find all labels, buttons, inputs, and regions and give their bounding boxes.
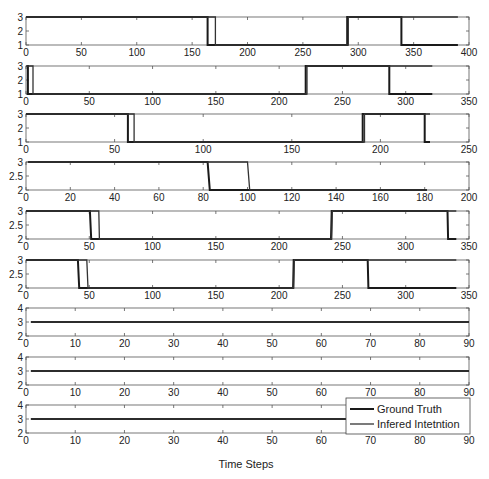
x-tick-label: 30 xyxy=(168,435,180,446)
subplot-2: 050100150200250300350123 xyxy=(17,61,477,108)
x-tick-label: 80 xyxy=(414,435,426,446)
y-tick-label: 4 xyxy=(17,400,23,411)
x-tick-label: 20 xyxy=(65,192,77,203)
x-tick-label: 70 xyxy=(365,435,377,446)
x-tick-label: 20 xyxy=(119,338,131,349)
y-tick-label: 3 xyxy=(17,12,23,23)
y-tick-label: 2 xyxy=(17,75,23,86)
y-tick-label: 2 xyxy=(17,185,23,196)
subplot-1: 050100150200250300350400123 xyxy=(17,12,477,59)
x-tick-label: 200 xyxy=(461,192,478,203)
x-tick-label: 100 xyxy=(144,290,161,301)
x-tick-label: 30 xyxy=(168,338,180,349)
x-tick-label: 50 xyxy=(267,435,279,446)
x-tick-label: 0 xyxy=(23,192,29,203)
x-tick-label: 200 xyxy=(271,241,288,252)
y-tick-label: 1 xyxy=(17,137,23,148)
x-tick-label: 140 xyxy=(328,192,345,203)
ground-truth-line xyxy=(26,260,456,288)
x-tick-label: 90 xyxy=(463,435,475,446)
x-tick-label: 50 xyxy=(267,387,279,398)
x-tick-label: 60 xyxy=(153,192,165,203)
x-tick-label: 20 xyxy=(119,387,131,398)
subplot-8: 0102030405060708090234 xyxy=(17,352,475,399)
y-tick-label: 3 xyxy=(17,414,23,425)
x-tick-label: 70 xyxy=(365,387,377,398)
x-tick-label: 90 xyxy=(463,387,475,398)
x-tick-label: 350 xyxy=(461,96,478,107)
y-tick-label: 2.5 xyxy=(9,269,23,280)
x-tick-label: 350 xyxy=(461,290,478,301)
x-tick-label: 350 xyxy=(405,47,422,58)
axes-frame xyxy=(26,260,469,288)
x-tick-label: 0 xyxy=(23,338,29,349)
y-tick-label: 3 xyxy=(17,255,23,266)
x-tick-label: 150 xyxy=(184,47,201,58)
subplot-6: 05010015020025030035022.53 xyxy=(9,255,478,302)
x-tick-label: 200 xyxy=(239,47,256,58)
y-tick-label: 4 xyxy=(17,303,23,314)
ground-truth-line xyxy=(28,162,427,190)
y-tick-label: 3 xyxy=(17,61,23,72)
x-tick-label: 180 xyxy=(416,192,433,203)
inferred-intention-line xyxy=(28,162,427,190)
x-tick-label: 40 xyxy=(217,435,229,446)
x-tick-label: 70 xyxy=(365,338,377,349)
x-tick-label: 300 xyxy=(397,290,414,301)
x-tick-label: 0 xyxy=(23,435,29,446)
y-tick-label: 2 xyxy=(17,26,23,37)
inferred-intention-line xyxy=(26,17,458,45)
x-tick-label: 0 xyxy=(23,241,29,252)
x-tick-label: 20 xyxy=(119,435,131,446)
x-tick-label: 30 xyxy=(168,387,180,398)
ground-truth-line xyxy=(26,114,430,142)
x-tick-label: 100 xyxy=(144,241,161,252)
x-tick-label: 60 xyxy=(316,387,328,398)
x-tick-label: 200 xyxy=(271,290,288,301)
y-tick-label: 3 xyxy=(17,109,23,120)
x-tick-label: 50 xyxy=(76,47,88,58)
axes-frame xyxy=(26,211,469,239)
subplot-7: 0102030405060708090234 xyxy=(17,303,475,350)
x-tick-label: 250 xyxy=(334,290,351,301)
inferred-intention-line xyxy=(26,114,430,142)
x-tick-label: 150 xyxy=(283,144,300,155)
inferred-intention-line xyxy=(26,260,456,288)
x-tick-label: 160 xyxy=(372,192,389,203)
x-tick-label: 50 xyxy=(109,144,121,155)
x-axis-label: Time Steps xyxy=(218,458,274,470)
legend: Ground TruthInfered Intetntion xyxy=(346,398,470,434)
x-tick-label: 50 xyxy=(84,241,96,252)
x-tick-label: 120 xyxy=(283,192,300,203)
y-tick-label: 3 xyxy=(17,366,23,377)
x-tick-label: 0 xyxy=(23,47,29,58)
x-tick-label: 150 xyxy=(208,241,225,252)
x-tick-label: 300 xyxy=(397,241,414,252)
x-tick-label: 150 xyxy=(208,96,225,107)
y-tick-label: 2 xyxy=(17,428,23,439)
subplot-5: 05010015020025030035022.53 xyxy=(9,206,478,253)
legend-inferred-label: Infered Intetntion xyxy=(377,418,460,430)
x-tick-label: 80 xyxy=(414,387,426,398)
y-tick-label: 3 xyxy=(17,157,23,168)
x-tick-label: 250 xyxy=(295,47,312,58)
chart-figure: Time Steps 05010015020025030035040012305… xyxy=(0,0,489,479)
legend-ground-truth-label: Ground Truth xyxy=(377,403,442,415)
subplot-4: 02040608010012014016018020022.53 xyxy=(9,157,478,204)
x-tick-label: 60 xyxy=(316,338,328,349)
x-tick-label: 100 xyxy=(128,47,145,58)
x-tick-label: 350 xyxy=(461,241,478,252)
x-tick-label: 250 xyxy=(334,96,351,107)
inferred-intention-line xyxy=(27,66,433,94)
x-tick-label: 0 xyxy=(23,144,29,155)
x-tick-label: 90 xyxy=(463,338,475,349)
x-tick-label: 40 xyxy=(217,387,229,398)
x-tick-label: 60 xyxy=(316,435,328,446)
y-tick-label: 2.5 xyxy=(9,220,23,231)
ground-truth-line xyxy=(27,66,433,94)
x-tick-label: 100 xyxy=(195,144,212,155)
axes-frame xyxy=(26,114,469,142)
x-tick-label: 400 xyxy=(461,47,478,58)
x-tick-label: 250 xyxy=(334,241,351,252)
x-tick-label: 300 xyxy=(397,96,414,107)
